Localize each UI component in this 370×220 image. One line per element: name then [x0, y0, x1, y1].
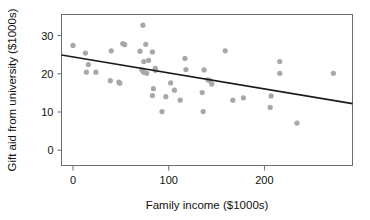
x-tick-label: 0: [70, 174, 76, 186]
data-point: [269, 93, 274, 98]
y-tick-label: 30: [41, 30, 53, 42]
data-point: [163, 94, 168, 99]
data-point: [159, 109, 164, 114]
x-axis-tick-labels: 0100200: [70, 174, 274, 186]
data-point: [117, 81, 122, 86]
data-point: [277, 71, 282, 76]
data-point: [151, 86, 156, 91]
data-point: [183, 67, 188, 72]
x-tick-label: 200: [255, 174, 273, 186]
data-point: [143, 42, 148, 47]
data-point: [241, 95, 246, 100]
data-point: [168, 80, 173, 85]
data-point: [202, 67, 207, 72]
chart-canvas: 0102030 0100200 Family income ($1000s) G…: [0, 0, 370, 220]
data-point: [122, 42, 127, 47]
data-points: [70, 23, 336, 126]
y-axis-ticks: [58, 36, 62, 151]
data-point: [146, 58, 151, 63]
data-point: [209, 81, 214, 86]
regression-line: [62, 55, 353, 104]
data-point: [182, 56, 187, 61]
data-point: [109, 48, 114, 53]
data-point: [137, 49, 142, 54]
data-point: [150, 93, 155, 98]
data-point: [178, 98, 183, 103]
data-point: [223, 48, 228, 53]
y-axis-tick-labels: 0102030: [41, 30, 53, 157]
y-tick-label: 20: [41, 68, 53, 80]
data-point: [83, 51, 88, 56]
data-point: [331, 71, 336, 76]
x-axis-title: Family income ($1000s): [146, 199, 269, 211]
data-point: [201, 109, 206, 114]
data-point: [93, 70, 98, 75]
data-point: [268, 105, 273, 110]
data-point: [150, 49, 155, 54]
data-point: [277, 59, 282, 64]
data-point: [86, 62, 91, 67]
data-point: [108, 78, 113, 83]
data-point: [172, 88, 177, 93]
data-point: [200, 90, 205, 95]
data-point: [140, 23, 145, 28]
data-point: [144, 71, 149, 76]
y-axis-title: Gift aid from university ($1000s): [6, 8, 18, 171]
x-tick-label: 100: [160, 174, 178, 186]
x-axis-ticks: [73, 166, 264, 171]
data-point: [294, 120, 299, 125]
data-point: [230, 98, 235, 103]
scatter-plot-figure: 0102030 0100200 Family income ($1000s) G…: [0, 0, 370, 220]
plot-frame: [62, 15, 353, 166]
data-point: [70, 43, 75, 48]
y-tick-label: 0: [47, 144, 53, 156]
data-point: [84, 70, 89, 75]
y-tick-label: 10: [41, 106, 53, 118]
data-point: [141, 59, 146, 64]
